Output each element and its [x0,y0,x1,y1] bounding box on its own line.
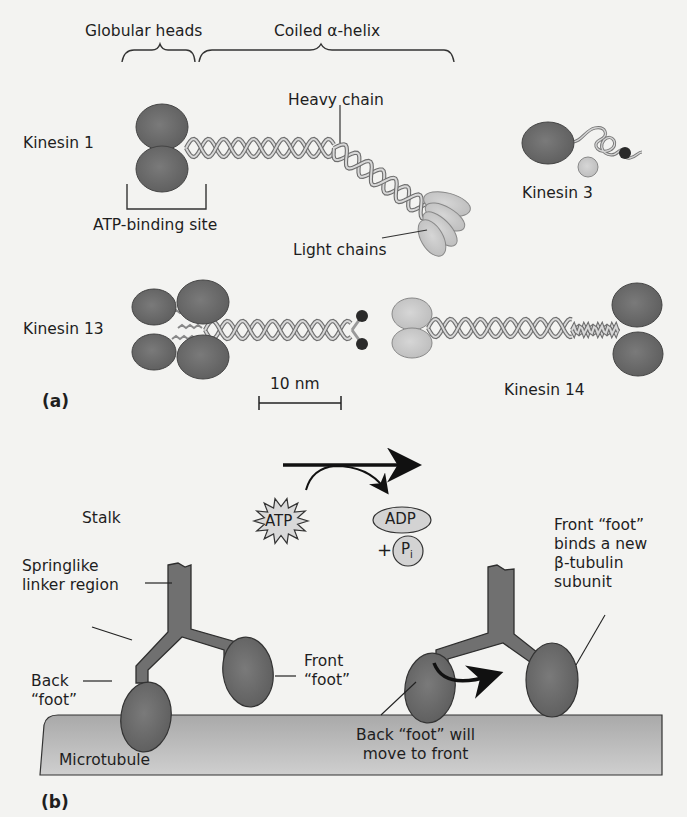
kinesin3-tail-dot [619,147,631,159]
globular-heads-label: Globular heads [85,22,202,41]
microtubule-label: Microtubule [59,751,150,770]
kinesin14-label: Kinesin 14 [504,381,585,400]
pi-subscript: i [410,549,413,560]
kinesin3-label: Kinesin 3 [522,184,593,203]
kinesin3-head [522,122,574,164]
kinesin3-molecule [522,122,642,177]
globular-heads-bracket [122,44,195,62]
coiled-helix-bracket [199,44,454,62]
back-foot-label: Back “foot” [31,672,77,710]
kinesin1-head-bottom [136,146,188,192]
springlike-linker-label: Springlike linker region [22,557,119,595]
kinesin1-coiled-helix [186,139,334,157]
scale-bar [259,396,341,410]
kinesin13-tail-dot-bottom [356,338,368,350]
kinesin14-head-bottom [613,332,663,376]
kinesin1-label: Kinesin 1 [23,134,94,153]
kinesin13-head-bottom-right [177,335,229,379]
front-foot-bound [526,643,578,717]
adp-label: ADP [385,510,416,529]
heavy-chain-label: Heavy chain [288,91,384,110]
kinesin14-light-head-bottom [392,328,432,358]
pi-main: P [401,540,410,558]
kinesin14-neck-coil [572,326,618,334]
front-foot-label: Front “foot” [304,652,350,690]
kinesin13-molecule [132,280,368,379]
front-binds-leader [576,615,605,665]
kinesin13-head-top-right [177,280,229,324]
pi-label: Pi [401,540,413,564]
kinesin14-molecule [392,283,663,376]
kinesin13-head-top-left [132,289,176,325]
kinesin13-tail-dot-top [356,310,368,322]
atp-binding-site-label: ATP-binding site [93,216,217,235]
kinesin14-coiled-helix [428,319,572,337]
kinesin1-molecule [136,104,473,261]
kinesin3-light-domain [578,157,598,177]
light-chains-label: Light chains [293,241,387,260]
kinesin-figure [0,0,687,817]
front-foot-binds-label: Front “foot” binds a new β-tubulin subun… [554,516,647,592]
coiled-helix-label: Coiled α-helix [274,22,380,41]
panel-a-label: (a) [42,391,69,411]
atp-label: ATP [265,512,292,531]
kinesin14-light-head-top [392,298,432,330]
kinesin14-head-top [612,283,662,327]
plus-label: + [377,540,392,559]
back-foot-will-move-label: Back “foot” will move to front [356,726,475,764]
kinesin13-coiled-helix [205,321,351,339]
panel-b-label: (b) [41,792,69,812]
stalk-label: Stalk [82,509,121,528]
kinesin1-head-top [136,104,188,150]
kinesin13-head-bottom-left [132,334,176,370]
scale-bar-label: 10 nm [270,375,320,394]
kinesin1-coiled-helix-diagonal [334,144,434,219]
kinesin13-label: Kinesin 13 [23,320,104,339]
